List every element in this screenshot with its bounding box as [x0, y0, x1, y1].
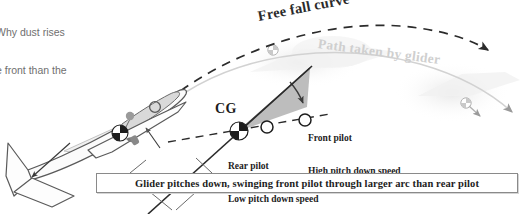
label-front-pilot-line1: Front pilot: [308, 133, 401, 144]
caption-leader-lines: [130, 128, 212, 210]
cg-symbol-on-glider: [112, 125, 128, 141]
diagram-canvas: Why dust rises e front than the Free fal…: [0, 0, 532, 214]
label-rear-pilot-line1: Rear pilot: [228, 161, 319, 172]
caption-text: Glider pitches down, swinging front pilo…: [135, 178, 479, 189]
caption-box: Glider pitches down, swinging front pilo…: [96, 173, 518, 193]
clipped-note: Why dust rises e front than the: [0, 1, 67, 101]
clipped-note-line1: Why dust rises: [0, 26, 67, 39]
label-rear-pilot-line2: Low pitch down speed: [228, 194, 319, 205]
clipped-note-line2: e front than the: [0, 64, 67, 77]
rear-pilot-marker: [261, 121, 273, 133]
label-cg: CG: [215, 101, 237, 117]
cg-symbol-pivot: [230, 122, 248, 140]
